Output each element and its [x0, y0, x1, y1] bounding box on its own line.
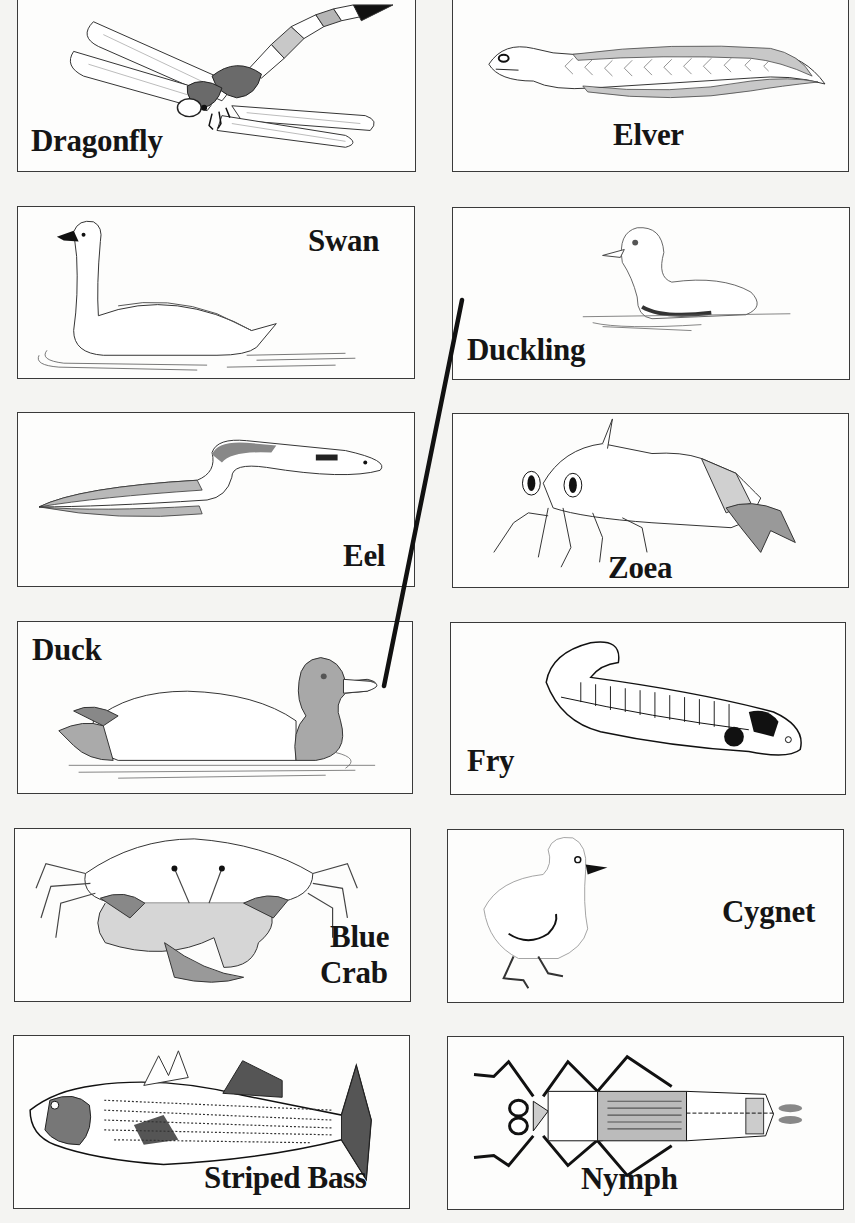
card-label: Swan	[308, 225, 379, 257]
card-elver[interactable]: Elver	[452, 0, 849, 172]
card-label: Eel	[343, 540, 385, 572]
card-zoea[interactable]: Zoea	[452, 413, 849, 588]
card-blue-crab[interactable]: Blue Crab	[14, 828, 411, 1002]
card-dragonfly[interactable]: Dragonfly	[17, 0, 416, 172]
card-label: Duckling	[467, 334, 585, 366]
card-swan[interactable]: Swan	[17, 206, 415, 379]
card-label: Elver	[613, 119, 684, 151]
card-label: Nymph	[581, 1163, 678, 1195]
card-duckling[interactable]: Duckling	[452, 207, 850, 380]
card-label: Cygnet	[722, 896, 815, 928]
card-label-line1: Blue	[330, 921, 389, 953]
card-label: Fry	[467, 745, 514, 777]
card-nymph[interactable]: Nymph	[447, 1036, 844, 1210]
card-striped-bass[interactable]: Striped Bass	[13, 1035, 410, 1209]
card-label-line2: Crab	[320, 957, 388, 989]
card-duck[interactable]: Duck	[17, 621, 413, 794]
card-label: Zoea	[608, 552, 672, 584]
card-label: Striped Bass	[204, 1162, 367, 1194]
card-fry[interactable]: Fry	[450, 622, 846, 795]
card-cygnet[interactable]: Cygnet	[447, 829, 844, 1003]
card-label: Dragonfly	[31, 125, 163, 157]
card-eel[interactable]: Eel	[17, 412, 415, 587]
card-label: Duck	[32, 634, 101, 666]
